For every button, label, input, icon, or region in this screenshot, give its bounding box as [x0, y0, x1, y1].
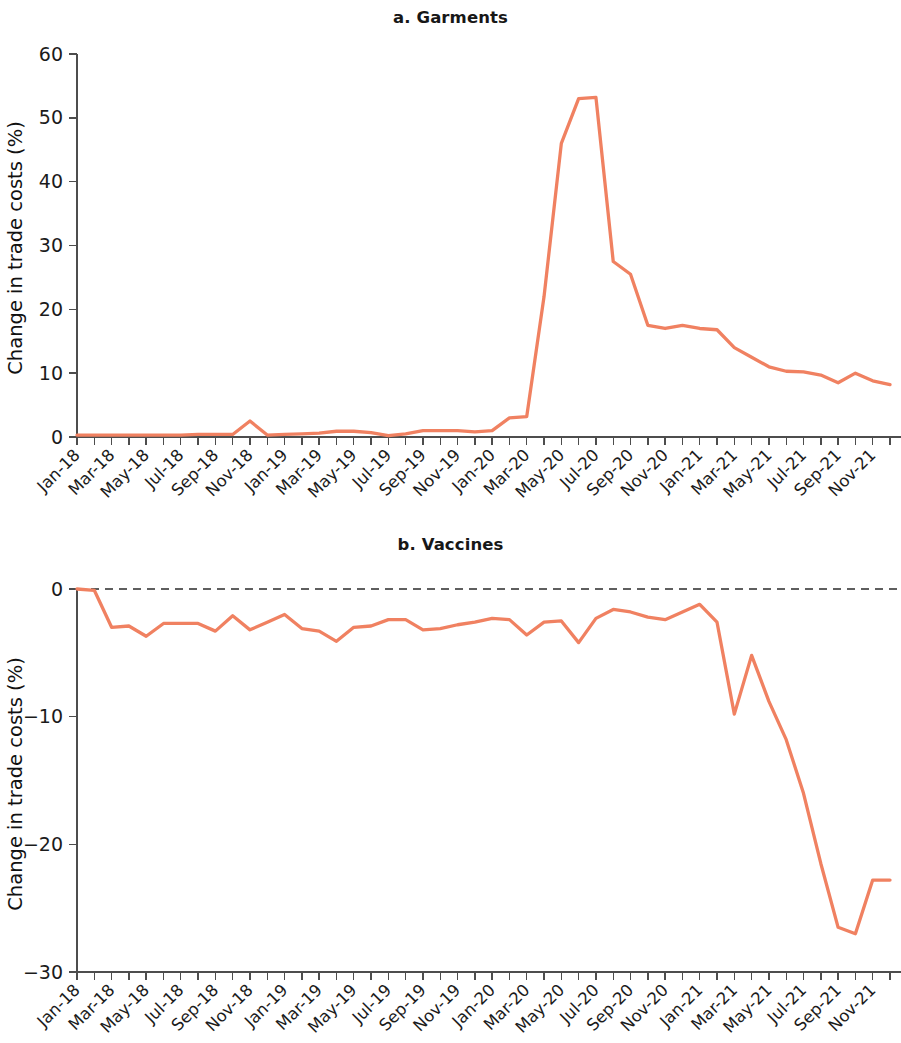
- y-tick-label: 30: [39, 234, 63, 256]
- figure-root: a. Garments 0102030405060Change in trade…: [0, 0, 901, 1043]
- data-series-line: [77, 589, 890, 934]
- y-tick-label: 10: [39, 362, 63, 384]
- vaccines-line-chart: 0−10−20−30Change in trade costs (%)Jan-1…: [0, 522, 901, 1043]
- y-tick-label: 50: [39, 106, 63, 128]
- y-axis-title: Change in trade costs (%): [4, 121, 27, 375]
- data-series-line: [77, 97, 890, 435]
- chart-panel-garments: a. Garments 0102030405060Change in trade…: [0, 0, 901, 530]
- y-tick-label: 0: [51, 426, 63, 448]
- y-tick-label: 60: [39, 43, 63, 65]
- y-tick-label: 0: [51, 578, 63, 600]
- chart-panel-vaccines: b. Vaccines 0−10−20−30Change in trade co…: [0, 522, 901, 1043]
- y-tick-label: 20: [39, 298, 63, 320]
- y-tick-label: −30: [23, 961, 63, 983]
- y-tick-label: 40: [39, 170, 63, 192]
- garments-line-chart: 0102030405060Change in trade costs (%)Ja…: [0, 0, 901, 530]
- y-tick-label: −20: [23, 833, 63, 855]
- y-tick-label: −10: [23, 705, 63, 727]
- y-axis-title: Change in trade costs (%): [4, 657, 27, 911]
